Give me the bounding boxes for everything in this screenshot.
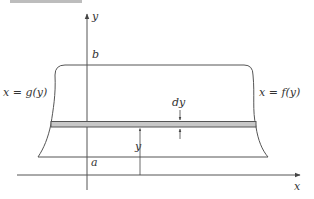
region-top-boundary (55, 65, 253, 75)
upper-bound-label: b (92, 48, 99, 61)
lower-bound-label: a (91, 156, 98, 169)
horizontal-strip (51, 122, 256, 128)
strip-height-label: y (134, 140, 142, 153)
dy-label: dy (172, 96, 186, 109)
left-curve-label: x = g(y) (3, 86, 47, 99)
x-axis-label: x (294, 180, 301, 193)
diagram-canvas: y x b a x = g(y) x = f(y) dy y (0, 0, 314, 199)
top-bar (10, 0, 82, 3)
right-curve-label: x = f(y) (259, 86, 300, 99)
y-axis-label: y (91, 10, 99, 23)
